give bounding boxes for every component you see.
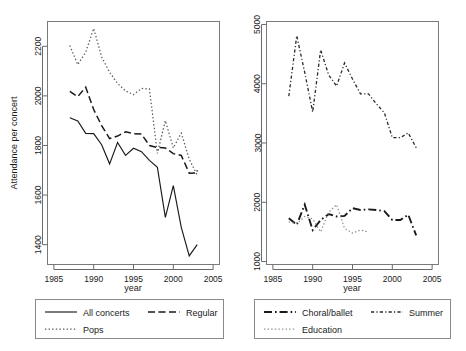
left-y-axis-title: Attendance per concert: [9, 96, 19, 190]
left-x-axis: [54, 265, 213, 270]
right-x-axis-title: year: [343, 283, 361, 293]
x-tick-label: 1995: [124, 274, 143, 284]
x-tick-label: 2000: [164, 274, 183, 284]
legend-label[interactable]: Choral/ballet: [302, 308, 353, 318]
x-tick-label: 2005: [423, 274, 442, 284]
x-tick-label: 1985: [263, 274, 282, 284]
legend-label[interactable]: All concerts: [83, 308, 130, 318]
x-tick-label: 2005: [204, 274, 223, 284]
left-chart-panel: 14001600180020002200 1985199019952000200…: [0, 0, 233, 351]
x-tick-label: 1990: [84, 274, 103, 284]
right-legend-items[interactable]: Choral/balletSummerEducation: [264, 308, 443, 335]
series-line: [289, 36, 416, 148]
right-legend-box: [255, 300, 451, 339]
left-x-axis-title: year: [124, 283, 142, 293]
left-plot-frame: [48, 22, 220, 265]
left-series-group: [70, 28, 197, 255]
legend-label[interactable]: Pops: [83, 325, 104, 335]
right-plot-frame: [267, 22, 439, 265]
y-tick-label: 2000: [34, 86, 44, 105]
right-series-group: [289, 36, 416, 236]
left-chart-svg: 14001600180020002200 1985199019952000200…: [0, 0, 233, 351]
left-x-tick-labels: 19851990199520002005: [44, 274, 222, 284]
legend-label[interactable]: Summer: [409, 308, 443, 318]
y-tick-label: 4000: [253, 74, 263, 93]
x-tick-label: 1985: [44, 274, 63, 284]
right-x-axis: [273, 265, 432, 270]
figure-container: 14001600180020002200 1985199019952000200…: [0, 0, 466, 351]
y-tick-label: 1000: [253, 252, 263, 271]
legend-label[interactable]: Education: [302, 325, 342, 335]
series-line: [289, 205, 416, 236]
left-legend-box: [36, 300, 224, 339]
y-tick-label: 1600: [34, 185, 44, 204]
x-tick-label: 2000: [383, 274, 402, 284]
y-tick-label: 2000: [253, 193, 263, 212]
series-line: [70, 87, 197, 173]
series-line: [70, 28, 197, 175]
right-chart-panel: 10002000300040005000 1985199019952000200…: [233, 0, 466, 351]
left-legend-items[interactable]: All concertsRegularPops: [45, 308, 218, 335]
y-tick-label: 2200: [34, 37, 44, 56]
right-chart-svg: 10002000300040005000 1985199019952000200…: [233, 0, 466, 351]
legend-label[interactable]: Regular: [186, 308, 218, 318]
x-tick-label: 1990: [303, 274, 322, 284]
y-tick-label: 1400: [34, 235, 44, 254]
right-x-tick-labels: 19851990199520002005: [263, 274, 441, 284]
y-tick-label: 5000: [253, 15, 263, 34]
y-tick-label: 3000: [253, 133, 263, 152]
x-tick-label: 1995: [343, 274, 362, 284]
series-line: [70, 118, 197, 256]
y-tick-label: 1800: [34, 136, 44, 155]
